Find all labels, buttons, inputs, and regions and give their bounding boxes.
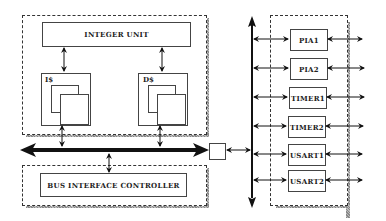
system-bus-arrow bbox=[20, 143, 209, 157]
peripheral-bus-arrow bbox=[248, 16, 256, 208]
connections bbox=[0, 0, 386, 221]
